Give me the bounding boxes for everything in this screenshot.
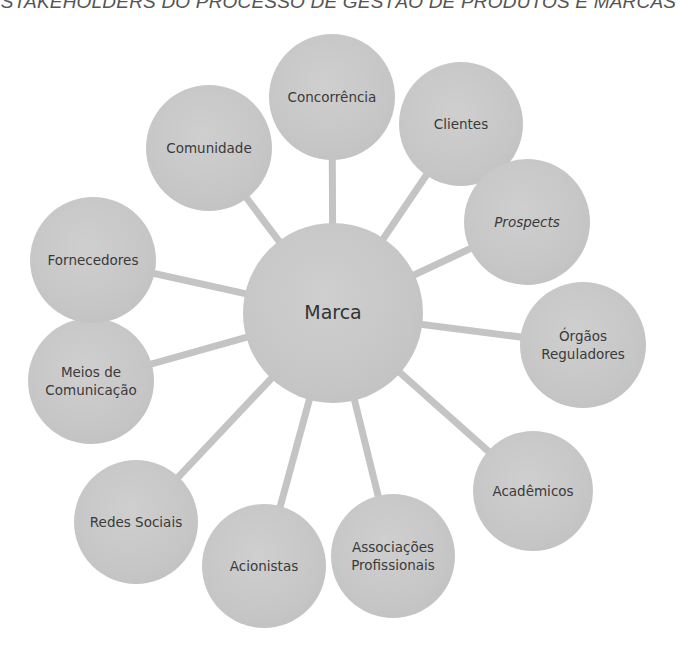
stakeholder-label: Meios de Comunicação <box>45 363 136 399</box>
center-node-marca: Marca <box>243 223 423 403</box>
stakeholder-node-concorrencia: Concorrência <box>269 34 395 160</box>
stakeholder-node-comunidade: Comunidade <box>146 85 272 211</box>
stakeholder-label: Concorrência <box>288 88 377 106</box>
stakeholder-node-academicos: Acadêmicos <box>473 431 593 551</box>
stakeholder-label: Associações Profissionais <box>351 538 435 574</box>
stakeholder-label: Redes Sociais <box>90 513 182 531</box>
stakeholder-label: Órgãos Reguladores <box>541 327 625 363</box>
stakeholder-node-meios-de-comunicacao: Meios de Comunicação <box>28 318 154 444</box>
stakeholder-node-acionistas: Acionistas <box>202 504 326 628</box>
stakeholder-node-associacoes-profissionais: Associações Profissionais <box>331 494 455 618</box>
stakeholder-node-orgaos-reguladores: Órgãos Reguladores <box>520 282 646 408</box>
stakeholder-label: Comunidade <box>166 139 251 157</box>
stakeholder-node-fornecedores: Fornecedores <box>30 197 156 323</box>
stakeholder-label: Acionistas <box>230 557 298 575</box>
center-node-label: Marca <box>304 300 362 326</box>
stakeholder-node-redes-sociais: Redes Sociais <box>74 460 198 584</box>
stakeholder-label: Fornecedores <box>48 251 139 269</box>
stakeholder-label: Acadêmicos <box>492 482 573 500</box>
stakeholder-label: Clientes <box>434 115 488 133</box>
stakeholder-label: Prospects <box>494 213 560 231</box>
stakeholder-node-prospects: Prospects <box>464 159 590 285</box>
